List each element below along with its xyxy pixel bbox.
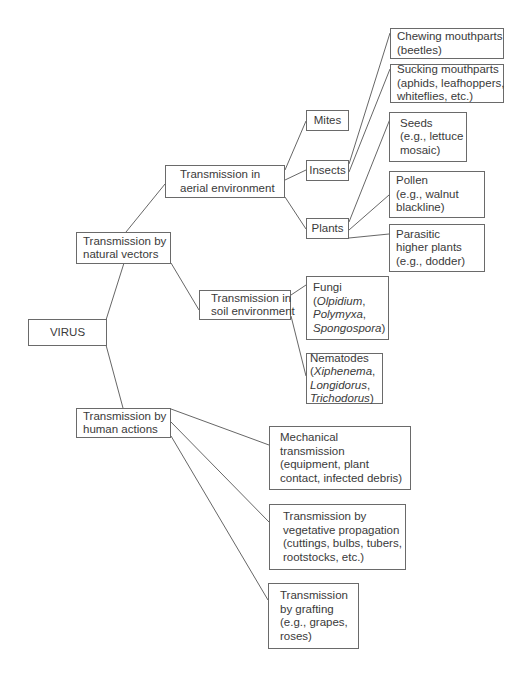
- node-text-line: by grafting: [280, 603, 354, 617]
- edge-virus-human: [106, 345, 123, 408]
- edge-human-grafting: [171, 436, 268, 600]
- node-text-line: whiteflies, etc.): [397, 90, 499, 104]
- paren-close: ): [381, 322, 385, 334]
- edge-natural-aerial: [126, 184, 165, 232]
- node-text-line: (e.g., walnut: [396, 188, 480, 202]
- node-text-line: Spongospora): [313, 322, 384, 336]
- node-text-line: roses): [280, 630, 354, 644]
- node-text-line: Nematodes: [310, 352, 378, 366]
- node-text-line: Transmission by: [283, 510, 401, 524]
- node-text-line: mosaic): [400, 144, 462, 158]
- node-seeds: Seeds (e.g., lettuce mosaic): [389, 112, 467, 162]
- genus-name: Xiphenema: [314, 365, 372, 377]
- edge-human-mechanical: [171, 409, 269, 445]
- node-pollen: Pollen (e.g., walnut blackline): [389, 171, 485, 218]
- node-text-line: Transmission by: [83, 235, 166, 249]
- genus-name: Spongospora: [313, 322, 381, 334]
- node-text-line: transmission: [280, 445, 406, 459]
- separator: ,: [362, 295, 365, 307]
- node-text-line: soil environment: [211, 305, 286, 319]
- node-text-line: contact, infected debris): [280, 472, 406, 486]
- node-aerial-environment: Transmission in aerial environment: [165, 165, 285, 198]
- node-text-line: Seeds: [400, 117, 462, 131]
- genus-name: Olpidium: [317, 295, 362, 307]
- edge-plants-pollen: [349, 195, 389, 230]
- node-virus-label: VIRUS: [50, 326, 85, 340]
- node-text-line: Mechanical: [280, 431, 406, 445]
- node-text-line: aerial environment: [180, 182, 280, 196]
- node-text-line: Mites: [314, 114, 341, 128]
- node-virus: VIRUS: [28, 319, 107, 346]
- node-human-actions: Transmission by human actions: [76, 408, 171, 438]
- edge-aerial-insects: [285, 170, 306, 180]
- node-text-line: (aphids, leafhoppers,: [397, 77, 499, 91]
- node-text-line: vegetative propagation: [283, 524, 401, 538]
- node-text-line: Transmission: [280, 589, 354, 603]
- node-chewing-mouthparts: Chewing mouthparts (beetles): [390, 28, 504, 59]
- node-text-line: (beetles): [397, 44, 499, 58]
- node-text-line: higher plants: [396, 241, 480, 255]
- node-text-line: (Xiphenema,: [310, 365, 378, 379]
- node-text-line: Plants: [312, 222, 344, 236]
- edge-virus-natural: [106, 263, 124, 320]
- node-text-line: (e.g., grapes,: [280, 616, 354, 630]
- node-text-line: (Olpidium,: [313, 295, 384, 309]
- node-text-line: blackline): [396, 201, 480, 215]
- edge-aerial-plants: [285, 197, 306, 229]
- node-vegetative-propagation: Transmission by vegetative propagation (…: [269, 504, 406, 570]
- node-soil-environment: Transmission in soil environment: [199, 290, 291, 320]
- genus-name: Polymyxa: [313, 308, 363, 320]
- node-text-line: (cuttings, bulbs, tubers,: [283, 537, 401, 551]
- node-mites: Mites: [306, 110, 349, 131]
- node-plants: Plants: [306, 218, 349, 239]
- genus-name: Trichodorus: [310, 392, 370, 404]
- edge-soil-fungi: [291, 285, 306, 295]
- separator: ,: [367, 379, 370, 391]
- node-text-line: (e.g., dodder): [396, 255, 480, 269]
- node-text-line: Trichodorus): [310, 392, 378, 406]
- node-nematodes: Nematodes (Xiphenema, Longidorus, Tricho…: [306, 353, 383, 404]
- node-text-line: Fungi: [313, 281, 384, 295]
- virus-transmission-diagram: VIRUS Transmission by natural vectors Tr…: [0, 0, 521, 678]
- edge-human-vegetative: [171, 422, 269, 522]
- node-text-line: (equipment, plant: [280, 458, 406, 472]
- edge-aerial-mites: [285, 121, 306, 170]
- edge-soil-nematodes: [291, 316, 306, 376]
- edge-natural-soil: [171, 263, 199, 310]
- genus-name: Longidorus: [310, 379, 367, 391]
- node-text-line: Longidorus,: [310, 379, 378, 393]
- node-text-line: Chewing mouthparts: [397, 30, 499, 44]
- edge-insects-sucking: [349, 69, 390, 172]
- edge-insects-chewing: [349, 33, 390, 164]
- node-text-line: Transmission in: [211, 292, 286, 306]
- node-text-line: Sucking mouthparts: [397, 63, 499, 77]
- node-text-line: Transmission by: [83, 410, 166, 424]
- node-natural-vectors: Transmission by natural vectors: [76, 232, 171, 264]
- node-insects: Insects: [306, 160, 349, 181]
- node-sucking-mouthparts: Sucking mouthparts (aphids, leafhoppers,…: [390, 64, 504, 103]
- separator: ,: [363, 308, 366, 320]
- edge-plants-seeds: [349, 119, 390, 222]
- node-text-line: Insects: [309, 164, 345, 178]
- node-text-line: (e.g., lettuce: [400, 130, 462, 144]
- node-text-line: Pollen: [396, 174, 480, 188]
- node-text-line: natural vectors: [83, 248, 166, 262]
- paren-close: ): [370, 392, 374, 404]
- node-text-line: Transmission in: [180, 168, 280, 182]
- node-text-line: Parasitic: [396, 228, 480, 242]
- node-grafting: Transmission by grafting (e.g., grapes, …: [268, 583, 359, 649]
- node-text-line: human actions: [83, 423, 166, 437]
- node-text-line: Polymyxa,: [313, 308, 384, 322]
- separator: ,: [372, 365, 375, 377]
- node-fungi: Fungi (Olpidium, Polymyxa, Spongospora): [306, 276, 389, 340]
- edge-plants-parasitic: [349, 234, 389, 238]
- node-mechanical-transmission: Mechanical transmission (equipment, plan…: [269, 426, 411, 490]
- node-parasitic-plants: Parasitic higher plants (e.g., dodder): [389, 224, 485, 272]
- node-text-line: rootstocks, etc.): [283, 551, 401, 565]
